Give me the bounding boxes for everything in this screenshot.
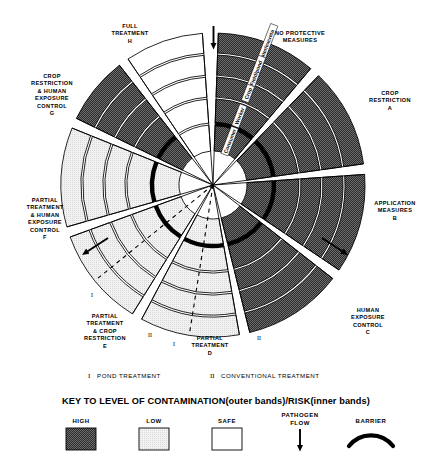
sector-title-line: FULL	[122, 23, 138, 29]
key-entry-pathogen-flow: PATHOGEN FLOW	[281, 412, 318, 448]
sector-title-line: & HUMAN	[31, 212, 60, 218]
key-swatch-low	[139, 428, 169, 450]
sector-title-line: CROP	[381, 90, 399, 96]
sector-title-line: PARTIAL	[32, 197, 59, 203]
sector-title-line: TREATMENT	[86, 320, 123, 326]
sector-title-line: MEASURES	[283, 37, 318, 43]
roman-marker-E: II	[148, 332, 152, 338]
key-label-safe: SAFE	[218, 418, 236, 424]
sector-letter: E	[103, 343, 107, 349]
sector-title-line: TREATMENT	[191, 342, 228, 348]
footnote-text-2: CONVENTIONAL TREATMENT	[221, 372, 320, 379]
sector-title-line: PARTIAL	[92, 313, 119, 319]
sector-title-line: NO PROTECTIVE	[275, 30, 325, 36]
sector-title-line: PARTIAL	[197, 335, 224, 341]
sector-title-line: CONTROL	[353, 322, 383, 328]
sector-title-A: CROPRESTRICTIONA	[369, 90, 411, 111]
sector-title-line: CONTROL	[37, 103, 67, 109]
sector-title-H: FULLTREATMENTH	[111, 23, 148, 44]
key-swatch-safe	[212, 428, 242, 450]
barrier-arc-icon	[349, 435, 393, 446]
key-label-pathogen-2: FLOW	[290, 420, 310, 426]
sector-title-G: CROPRESTRICTION& HUMANEXPOSURECONTROLG	[31, 73, 73, 116]
sector-title-line: CONTROL	[30, 227, 60, 233]
sector-letter: C	[366, 329, 370, 335]
sector-title-line: TREATMENT	[26, 204, 63, 210]
footnote-text-1: POND TREATMENT	[97, 372, 161, 379]
sector-title-line: RESTRICTION	[31, 80, 73, 86]
sector-title-F: PARTIALTREATMENT& HUMANEXPOSURECONTROLF	[26, 197, 63, 240]
key-entry-low: LOW	[139, 418, 169, 450]
sector-title-D: PARTIALTREATMENTD	[191, 335, 228, 356]
roman-marker-D-left: I	[173, 341, 175, 347]
key-label-high: HIGH	[73, 418, 90, 424]
sector-title-C: HUMANEXPOSURECONTROLC	[351, 307, 385, 335]
key-entry-barrier: BARRIER	[349, 418, 393, 446]
key-entry-safe: SAFE	[212, 418, 242, 450]
sector-letter: A	[388, 105, 392, 111]
sector-title-line: RESTRICTION	[369, 97, 411, 103]
sector-title-E: PARTIALTREATMENT& CROPRESTRICTIONE	[84, 313, 126, 349]
sector-title-line: EXPOSURE	[28, 219, 62, 225]
sector-title-line: EXPOSURE	[35, 95, 69, 101]
sector-title-B: APPLICATIONMEASURESB	[374, 200, 415, 221]
key-title: KEY TO LEVEL OF CONTAMINATION(outer band…	[62, 396, 370, 406]
sector-letter: D	[208, 350, 212, 356]
roman-marker-F: I	[91, 292, 93, 298]
key-label-barrier: BARRIER	[356, 418, 387, 424]
sector-title-line: EXPOSURE	[351, 314, 385, 320]
sector-title-line: & CROP	[93, 328, 117, 334]
footnote-roman-1: I	[88, 372, 91, 380]
sector-title-line: MEASURES	[378, 207, 413, 213]
sector-title-line: & HUMAN	[38, 88, 67, 94]
footnote-roman-2: II	[210, 372, 215, 380]
diagram-root: Wastewater/excretaField/pondCropWorkerCo…	[0, 0, 432, 465]
footnote-row: I POND TREATMENT II CONVENTIONAL TREATME…	[88, 372, 320, 380]
sector-title-none: NO PROTECTIVEMEASURES	[275, 30, 325, 43]
wheel-diagram-svg: Wastewater/excretaField/pondCropWorkerCo…	[0, 0, 432, 465]
sector-title-line: APPLICATION	[374, 200, 415, 206]
wheel-sectors	[61, 33, 365, 337]
sector-letter: H	[128, 38, 132, 44]
sector-letter: B	[393, 215, 397, 221]
sector-title-line: RESTRICTION	[84, 335, 126, 341]
key-label-low: LOW	[146, 418, 162, 424]
key-swatch-high	[66, 428, 96, 450]
key-entry-high: HIGH	[66, 418, 96, 450]
sector-title-line: HUMAN	[357, 307, 380, 313]
sector-title-line: TREATMENT	[111, 30, 148, 36]
sector-letter: G	[50, 110, 55, 116]
sector-letter: F	[43, 234, 47, 240]
roman-marker-D-right: II	[257, 335, 261, 341]
sector-title-line: CROP	[43, 73, 61, 79]
key-label-pathogen-1: PATHOGEN	[281, 412, 318, 418]
